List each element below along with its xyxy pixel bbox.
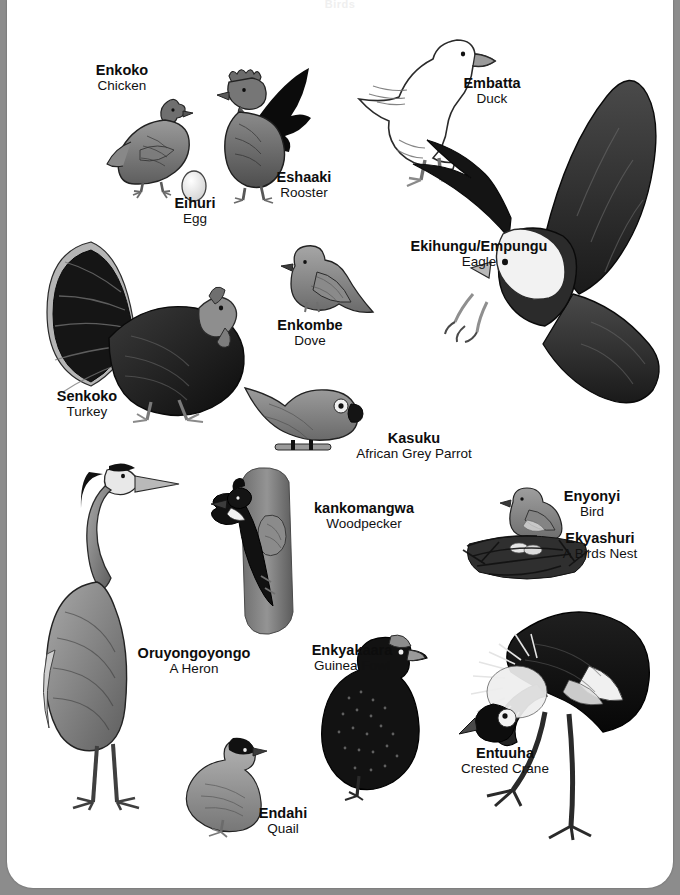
label-parrot: Kasuku African Grey Parrot	[329, 430, 499, 461]
label-eagle: Ekihungu/Empungu Eagle	[395, 238, 563, 269]
label-nest: Ekyashuri A Birds Nest	[535, 530, 665, 561]
label-parrot-local: Kasuku	[329, 430, 499, 446]
label-duck: Embatta Duck	[432, 75, 552, 106]
label-crane-local: Entuuha	[435, 745, 575, 761]
label-bird-local: Enyonyi	[537, 488, 647, 504]
label-quail-english: Quail	[235, 821, 331, 836]
label-rooster: Eshaaki Rooster	[249, 169, 359, 200]
label-duck-english: Duck	[432, 91, 552, 106]
poster-page: Birds	[7, 0, 673, 888]
label-quail: Endahi Quail	[235, 805, 331, 836]
label-dove: Enkombe Dove	[255, 317, 365, 348]
label-eagle-english: Eagle	[395, 254, 563, 269]
heron-illustration	[35, 462, 185, 812]
label-dove-local: Enkombe	[255, 317, 365, 333]
label-heron-english: A Heron	[117, 661, 271, 676]
woodpecker-illustration	[205, 468, 315, 638]
label-woodpecker: kankomangwa Woodpecker	[297, 500, 431, 531]
label-quail-local: Endahi	[235, 805, 331, 821]
label-crane: Entuuha Crested Crane	[435, 745, 575, 776]
label-bird: Enyonyi Bird	[537, 488, 647, 519]
label-parrot-english: African Grey Parrot	[329, 446, 499, 461]
crested-crane-illustration	[449, 588, 671, 868]
label-chicken-english: Chicken	[67, 78, 177, 93]
label-woodpecker-english: Woodpecker	[297, 516, 431, 531]
label-nest-local: Ekyashuri	[535, 530, 665, 546]
label-egg: Eihuri Egg	[140, 195, 250, 226]
label-chicken: Enkoko Chicken	[67, 62, 177, 93]
label-rooster-local: Eshaaki	[249, 169, 359, 185]
label-guineafowl: Enkyakaara Guinea Fowl	[289, 642, 415, 673]
label-chicken-local: Enkoko	[67, 62, 177, 78]
label-turkey-local: Senkoko	[27, 388, 147, 404]
label-heron: Oruyongoyongo A Heron	[117, 645, 271, 676]
label-eagle-local: Ekihungu/Empungu	[395, 238, 563, 254]
label-egg-local: Eihuri	[140, 195, 250, 211]
label-woodpecker-local: kankomangwa	[297, 500, 431, 516]
label-turkey-english: Turkey	[27, 404, 147, 419]
label-bird-english: Bird	[537, 504, 647, 519]
label-guineafowl-local: Enkyakaara	[289, 642, 415, 658]
label-nest-english: A Birds Nest	[535, 546, 665, 561]
label-dove-english: Dove	[255, 333, 365, 348]
label-turkey: Senkoko Turkey	[27, 388, 147, 419]
label-duck-local: Embatta	[432, 75, 552, 91]
label-egg-english: Egg	[140, 211, 250, 226]
page-title: Birds	[7, 0, 673, 10]
label-crane-english: Crested Crane	[435, 761, 575, 776]
dove-illustration	[271, 240, 376, 318]
label-guineafowl-english: Guinea Fowl	[289, 658, 415, 673]
label-heron-local: Oruyongoyongo	[117, 645, 271, 661]
label-rooster-english: Rooster	[249, 185, 359, 200]
